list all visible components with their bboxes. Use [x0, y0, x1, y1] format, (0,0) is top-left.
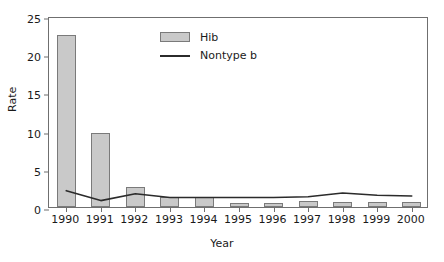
x-axis-tick-mark: [308, 207, 309, 212]
x-axis-title: Year: [0, 237, 444, 250]
x-axis-tick-mark: [412, 207, 413, 212]
bar: [230, 203, 249, 207]
y-axis-tick-mark: [44, 19, 49, 20]
x-axis-tick-mark: [274, 207, 275, 212]
bar: [402, 202, 421, 207]
x-axis-tick-mark: [170, 207, 171, 212]
x-axis-tick-mark: [377, 207, 378, 212]
x-axis-tick-mark: [343, 207, 344, 212]
chart-figure: Rate 0510152025 199019911992199319941995…: [0, 0, 444, 262]
legend-label-nontype-b: Nontype b: [200, 49, 257, 62]
y-axis-tick: 0: [34, 200, 49, 219]
bar: [264, 203, 283, 207]
y-axis-tick-mark: [44, 210, 49, 211]
legend-item-nontype-b: Nontype b: [160, 46, 257, 64]
y-axis-tick: 20: [27, 47, 49, 66]
y-axis-tick: 10: [27, 123, 49, 142]
legend-item-hib: Hib: [160, 28, 257, 46]
bar: [333, 202, 352, 207]
bar: [195, 197, 214, 207]
bar: [160, 197, 179, 207]
x-axis-tick-label: 1994: [189, 214, 217, 226]
x-axis-tick-label: 1993: [155, 214, 183, 226]
y-axis-tick-mark: [44, 57, 49, 58]
x-axis-tick-label: 1995: [224, 214, 252, 226]
bar: [126, 187, 145, 207]
bar: [91, 133, 110, 207]
x-axis-tick-mark: [135, 207, 136, 212]
x-axis-tick-label: 1999: [362, 214, 390, 226]
x-axis-tick-mark: [239, 207, 240, 212]
bar: [57, 35, 76, 207]
bar: [368, 202, 387, 207]
y-axis-tick: 15: [27, 85, 49, 104]
y-axis-tick-mark: [44, 171, 49, 172]
chart-legend: Hib Nontype b: [160, 28, 257, 64]
legend-label-hib: Hib: [200, 31, 218, 44]
y-axis-tick-mark: [44, 95, 49, 96]
y-axis-tick-label: 15: [27, 90, 41, 101]
y-axis-tick-label: 10: [27, 128, 41, 139]
legend-bar-swatch-icon: [160, 32, 190, 42]
x-axis-tick-label: 1991: [86, 214, 114, 226]
y-axis-tick: 25: [27, 9, 49, 28]
x-axis-tick-label: 1990: [51, 214, 79, 226]
x-axis-tick-label: 2000: [397, 214, 425, 226]
x-axis-tick-label: 1998: [328, 214, 356, 226]
y-axis-title: Rate: [6, 87, 19, 112]
y-axis-tick-mark: [44, 133, 49, 134]
y-axis-tick-label: 25: [27, 14, 41, 25]
bar: [299, 201, 318, 207]
x-axis-tick-mark: [204, 207, 205, 212]
y-axis-tick-label: 20: [27, 52, 41, 63]
y-axis-tick: 5: [34, 161, 49, 180]
x-axis-tick-mark: [101, 207, 102, 212]
y-axis-tick-label: 5: [34, 166, 41, 177]
legend-line-swatch-icon: [160, 50, 190, 60]
x-axis-tick-label: 1997: [293, 214, 321, 226]
x-axis-tick-mark: [66, 207, 67, 212]
x-axis-tick-label: 1996: [259, 214, 287, 226]
y-axis-tick-label: 0: [34, 205, 41, 216]
x-axis-tick-label: 1992: [120, 214, 148, 226]
